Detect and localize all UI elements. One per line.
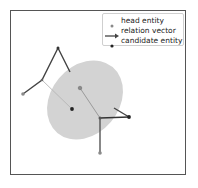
legend-item-head-entity: head entity: [103, 16, 164, 26]
legend-item-candidate-entity: candidate entity: [103, 36, 182, 46]
dot-icon: [103, 16, 121, 26]
candidate-entity-point: [70, 107, 74, 111]
region-ellipse: [31, 45, 138, 155]
legend-label: head entity: [121, 16, 164, 26]
head-entity-point: [78, 86, 82, 90]
relation-vector: [100, 117, 129, 118]
joint-marker: [57, 47, 60, 50]
candidate-entity-point: [127, 115, 131, 119]
joint-marker: [99, 117, 102, 120]
head-entity-point: [98, 151, 102, 155]
legend: head entity relation vector candidate en…: [102, 13, 184, 46]
arrow-icon: [103, 26, 121, 36]
legend-label: relation vector: [121, 26, 176, 36]
joint-marker: [41, 79, 44, 82]
legend-label: candidate entity: [121, 36, 182, 46]
legend-item-relation-vector: relation vector: [103, 26, 176, 36]
head-entity-point: [21, 92, 25, 96]
dot-icon: [103, 36, 121, 46]
